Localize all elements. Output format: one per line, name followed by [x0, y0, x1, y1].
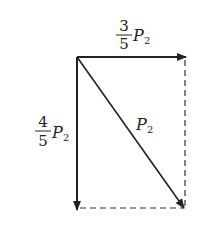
fraction-numerator: 4	[38, 113, 48, 131]
vector-diagram: 3 5 P 2 4 5 P 2 P 2	[0, 0, 201, 231]
subscript: 2	[147, 124, 153, 135]
subscript: 2	[63, 132, 69, 143]
variable-p: P	[135, 115, 147, 134]
variable-p: P	[51, 123, 63, 142]
resultant-arrow	[77, 57, 184, 208]
fraction-denominator: 5	[119, 35, 129, 53]
subscript: 2	[144, 35, 150, 46]
fraction-denominator: 5	[38, 132, 48, 150]
fraction-numerator: 3	[119, 17, 129, 35]
horizontal-component-label: 3 5 P 2	[116, 17, 150, 53]
variable-p: P	[132, 26, 144, 45]
vertical-component-label: 4 5 P 2	[35, 113, 69, 150]
resultant-label: P 2	[135, 115, 153, 135]
